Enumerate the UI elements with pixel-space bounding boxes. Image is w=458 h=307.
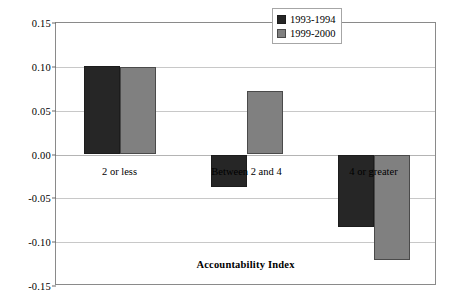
y-axis-tick-label: 0.10 [32, 61, 51, 72]
y-axis-tick-mark [52, 23, 56, 24]
y-axis-tick-label: -0.10 [28, 237, 51, 248]
y-axis-tick-mark [52, 198, 56, 199]
y-axis-tick-mark [52, 110, 56, 111]
legend-item: 1999-2000 [277, 26, 336, 40]
x-axis-category-label: 4 or greater [349, 165, 397, 176]
legend-swatch-icon [277, 29, 286, 38]
x-axis-category-label: Between 2 and 4 [211, 165, 281, 176]
y-axis-tick-label: 0.05 [32, 105, 51, 116]
y-axis-tick-mark [52, 242, 56, 243]
legend-label: 1999-2000 [290, 28, 336, 39]
y-axis-tick-label: 0.15 [32, 18, 51, 29]
x-axis-category-label: 2 or less [102, 165, 137, 176]
y-axis-tick-label: -0.05 [28, 193, 51, 204]
x-axis-title: Accountability Index [55, 259, 436, 270]
bar [247, 91, 283, 154]
y-axis-tick-mark [52, 66, 56, 67]
legend-item: 1993-1994 [277, 12, 336, 26]
bar [84, 66, 120, 155]
y-axis-tick-mark [52, 154, 56, 155]
bar-chart: Standard Deviations from the Average 0.1… [0, 0, 458, 307]
plot-area: 0.150.100.050.00-0.05-0.10-0.15 2 or les… [55, 22, 436, 285]
bar [120, 67, 156, 155]
legend-swatch-icon [277, 15, 286, 24]
y-axis-tick-mark [52, 286, 56, 287]
chart-legend: 1993-1994 1999-2000 [272, 8, 342, 44]
y-axis-tick-label: 0.00 [32, 149, 51, 160]
y-axis-tick-label: -0.15 [28, 281, 51, 292]
legend-label: 1993-1994 [290, 14, 336, 25]
